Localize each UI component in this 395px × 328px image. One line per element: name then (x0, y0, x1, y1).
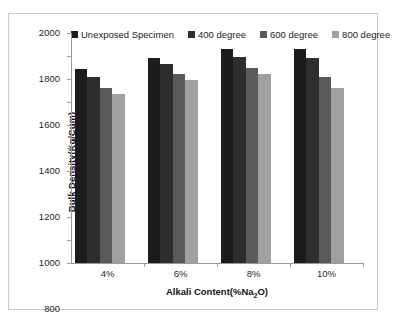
bar (112, 94, 125, 263)
y-axis-tick-label: 1200 (39, 212, 60, 222)
y-axis-tick-label: 1400 (39, 166, 60, 176)
y-axis-tick-label: 1000 (39, 258, 60, 268)
x-axis-title-subscript: 2 (254, 292, 258, 299)
x-axis-title: Alkali Content(%Na2O) (71, 286, 363, 299)
bar (87, 77, 100, 263)
x-axis-tick-label: 6% (144, 269, 217, 279)
plot-area: 02004006008001000120014001600180020004%6… (71, 33, 363, 263)
bar (246, 68, 259, 264)
bar (148, 58, 161, 263)
bar (173, 74, 186, 263)
y-axis-tick-label: 800 (44, 304, 60, 314)
x-axis-tick (144, 263, 145, 267)
bar (100, 88, 113, 263)
bar (319, 77, 332, 263)
x-axis-tick-label: 10% (290, 269, 363, 279)
bar (294, 49, 307, 263)
bar (331, 88, 344, 263)
bar-group (144, 33, 217, 263)
y-axis-tick-label: 1600 (39, 120, 60, 130)
x-axis-tick (217, 263, 218, 267)
bar (75, 69, 88, 263)
bar-group (290, 33, 363, 263)
bar (160, 64, 173, 263)
x-axis-tick (363, 263, 364, 267)
bar (185, 80, 198, 263)
x-axis-tick (290, 263, 291, 267)
chart-figure: Unexposed Specimen400 degree600 degree80… (8, 13, 378, 310)
plot-region: 02004006008001000120014001600180020004%6… (71, 33, 363, 276)
bar-group (71, 33, 144, 263)
y-axis-tick: 0 (67, 263, 71, 264)
bar-group (217, 33, 290, 263)
x-axis-tick-label: 4% (71, 269, 144, 279)
bar (221, 49, 234, 263)
bar (306, 58, 319, 263)
bar (258, 74, 271, 263)
x-axis-tick-label: 8% (217, 269, 290, 279)
y-axis-tick-label: 2000 (39, 28, 60, 38)
bar (233, 57, 246, 263)
y-axis-tick-label: 1800 (39, 74, 60, 84)
